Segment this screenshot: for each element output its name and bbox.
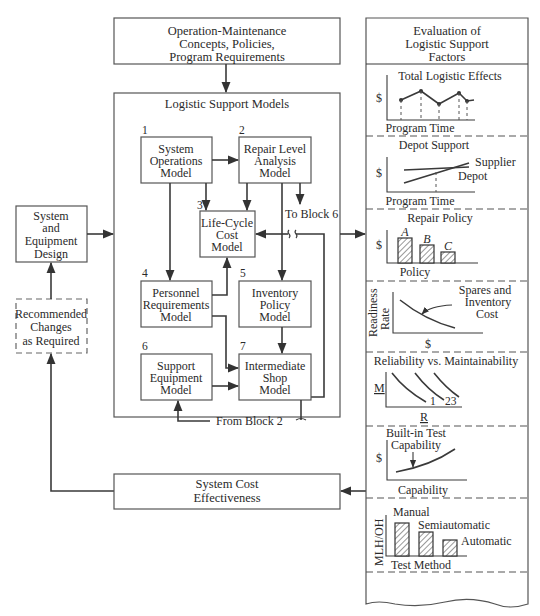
block-7-line-3: Model	[259, 383, 291, 397]
changes-line-2: Changes	[30, 320, 72, 334]
chart-2-xlabel: Program Time	[385, 194, 454, 208]
curve-23-label: 23	[445, 395, 457, 407]
chart-3-xlabel: Policy	[400, 265, 431, 279]
bar-manual-label: Manual	[393, 505, 430, 519]
block-1-line-3: Model	[160, 166, 192, 180]
bar-automatic-label: Automatic	[461, 534, 512, 548]
chart-1-ylabel: $	[376, 91, 382, 105]
block-3-number: 3	[197, 199, 203, 211]
arrow-cost-to-changes	[51, 354, 114, 491]
chart-5-title: Reliability vs. Maintainability	[374, 354, 518, 368]
chart-1-xlabel: Program Time	[385, 121, 454, 135]
chart-4-xlabel: $	[425, 337, 431, 351]
block-5-line-3: Model	[259, 310, 291, 324]
changes-line-1: Recommended	[15, 307, 87, 321]
block-2-line-3: Model	[259, 166, 291, 180]
system-equipment-design-box: System and Equipment Design	[16, 206, 87, 262]
models-panel-title: Logistic Support Models	[165, 97, 289, 111]
design-line-3: Equipment	[25, 234, 78, 248]
block-5-number: 5	[240, 267, 246, 279]
curve-1-label: 1	[430, 395, 436, 407]
top-box-line-1: Operation-Maintenance	[168, 24, 287, 38]
block-2-number: 2	[239, 124, 245, 136]
bar-c-label: C	[444, 239, 453, 253]
chart-3-title: Repair Policy	[407, 211, 473, 225]
eval-title-line-2: Logistic Support	[405, 37, 489, 51]
chart-6-title-2: Capability	[391, 438, 441, 452]
chart-2-ylabel: $	[376, 166, 382, 180]
chart-3-ylabel: $	[376, 238, 382, 252]
from-block-2-label: From Block 2	[216, 414, 283, 428]
chart-6-ylabel: $	[376, 451, 382, 465]
block-1-number: 1	[142, 124, 148, 136]
operation-maintenance-box: Operation-Maintenance Concepts, Policies…	[114, 18, 340, 64]
block-4-line-3: Model	[160, 310, 192, 324]
chart-6-xlabel: Capability	[398, 483, 448, 497]
bar-semiautomatic-label: Semiautomatic	[418, 518, 490, 532]
chart-1-title: Total Logistic Effects	[398, 69, 502, 83]
chart-4-ylabel-2: Rate	[378, 308, 392, 330]
block-7-number: 7	[240, 340, 246, 352]
eval-title-line-3: Factors	[429, 50, 466, 64]
cost-line-1: System Cost	[196, 477, 259, 491]
block-4-number: 4	[142, 267, 148, 279]
changes-line-3: as Required	[23, 334, 80, 348]
top-box-line-3: Program Requirements	[169, 50, 285, 64]
chart-7-xlabel: Test Method	[391, 558, 451, 572]
chart-5-xlabel: R	[420, 410, 428, 424]
block-3-line-3: Model	[211, 240, 243, 254]
chart-2-title: Depot Support	[399, 138, 470, 152]
recommended-changes-box: Recommended Changes as Required	[15, 299, 87, 353]
bar-b-label: B	[423, 232, 431, 246]
block-6-number: 6	[142, 340, 148, 352]
chart-5-ylabel: M	[374, 381, 385, 395]
top-box-line-2: Concepts, Policies,	[179, 37, 274, 51]
series-supplier-label: Supplier	[475, 155, 516, 169]
cost-line-2: Effectiveness	[193, 491, 260, 505]
logistic-support-diagram: Operation-Maintenance Concepts, Policies…	[0, 0, 540, 616]
design-line-2: and	[42, 221, 59, 235]
block-6-line-3: Model	[160, 383, 192, 397]
series-depot-label: Depot	[458, 169, 488, 183]
bar-a-label: A	[400, 225, 409, 239]
chart-4-title-3: Cost	[476, 307, 499, 321]
design-line-4: Design	[34, 247, 68, 261]
eval-title-line-1: Evaluation of	[413, 24, 482, 38]
to-block-6-label: To Block 6	[285, 207, 338, 221]
system-cost-effectiveness-box: System Cost Effectiveness	[114, 474, 340, 509]
chart-7-ylabel: MLH/OH	[372, 518, 386, 566]
